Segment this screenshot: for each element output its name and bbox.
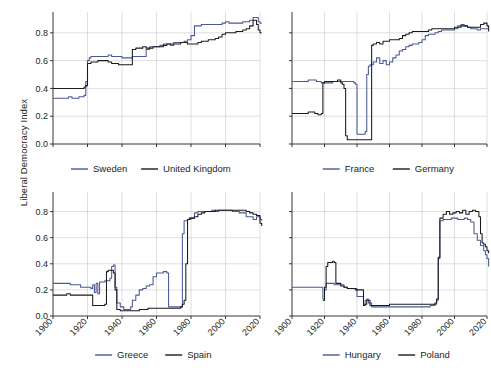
series-line-spain [53,210,262,311]
x-tick-label: 1980 [171,316,192,337]
legend-panel-greece-spain: GreeceSpain [95,349,211,360]
panel-hungary-poland: 1900192019401960198020002020 [272,192,488,338]
y-tick-label: 0.0 [35,139,48,149]
figure-container: Liberal Democracy Index 0.00.20.40.60.8S… [0,0,491,374]
y-tick-label: 0.2 [35,285,48,295]
x-tick-label: 2020 [467,316,488,337]
x-tick-label: 1920 [305,316,326,337]
multi-panel-line-chart: 0.00.20.40.60.8SwedenUnited KingdomFranc… [0,0,491,374]
x-tick-label: 1960 [137,316,158,337]
series-line-hungary [292,218,489,307]
legend-label-france: France [345,163,375,174]
series-line-france [292,25,489,135]
x-tick-label: 1900 [272,316,293,337]
y-tick-label: 0.8 [35,207,48,217]
x-tick-label: 2000 [435,316,456,337]
x-tick-label: 2020 [240,316,261,337]
legend-label-spain: Spain [187,349,211,360]
y-tick-label: 0.6 [35,233,48,243]
legend-panel-france-germany: FranceGermany [323,163,454,174]
x-tick-label: 1940 [337,316,358,337]
y-tick-label: 0.0 [35,311,48,321]
panel-sweden-uk: 0.00.20.40.60.8 [35,12,261,149]
legend-panel-hungary-poland: HungaryPoland [323,349,450,360]
y-tick-label: 0.4 [35,259,48,269]
y-tick-label: 0.2 [35,111,48,121]
x-tick-label: 1920 [68,316,89,337]
x-tick-label: 1980 [402,316,423,337]
series-line-poland [323,210,489,305]
series-line-greece [53,210,262,309]
legend-label-sweden: Sweden [93,163,127,174]
x-tick-label: 1940 [102,316,123,337]
legend-label-greece: Greece [117,349,148,360]
x-tick-label: 2000 [206,316,227,337]
y-axis-label: Liberal Democracy Index [18,68,29,238]
series-line-united-kingdom [53,20,262,88]
y-tick-label: 0.6 [35,56,48,66]
legend-label-united-kingdom: United Kingdom [163,163,231,174]
legend-panel-sweden-uk: SwedenUnited Kingdom [71,163,231,174]
panel-greece-spain: 19001920194019601980200020200.00.20.40.6… [33,192,262,338]
panel-france-germany [289,12,489,147]
legend-label-hungary: Hungary [345,349,381,360]
y-tick-label: 0.4 [35,84,48,94]
series-line-sweden [53,18,262,99]
legend-label-germany: Germany [415,163,454,174]
y-tick-label: 0.8 [35,28,48,38]
x-tick-label: 1960 [370,316,391,337]
legend-label-poland: Poland [420,349,450,360]
